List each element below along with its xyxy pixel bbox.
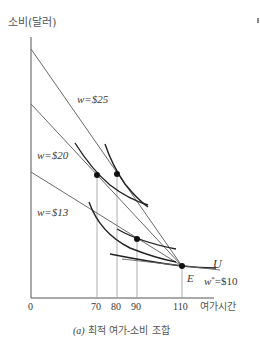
x-tick-110: 110 [173, 301, 188, 312]
x-tick-80: 80 [111, 301, 121, 312]
indifference-curve-90 [89, 202, 176, 262]
indifference-curve-80 [105, 144, 148, 207]
label-w20: w=$20 [37, 149, 69, 161]
optimum-point-80 [114, 171, 120, 177]
optimum-point-70 [94, 172, 100, 178]
x-tick-70: 70 [91, 301, 101, 312]
labor-leisure-chart: 소비(달러) w=$25 w=$20 w=$13 U E w*=$10 0 70… [0, 0, 260, 351]
x-tick-90: 90 [131, 301, 141, 312]
indifference-curve-70 [75, 143, 148, 205]
optimum-point-90 [134, 236, 140, 242]
label-w13: w=$13 [37, 206, 69, 218]
x-tick-0: 0 [28, 301, 33, 312]
endowment-point-E [179, 263, 185, 269]
indifference-curve-U [110, 254, 216, 268]
page-edge-mark [257, 18, 259, 23]
budget-line-w20 [31, 104, 182, 266]
label-E: E [186, 272, 194, 284]
x-axis-label: 여가시간 [200, 301, 236, 312]
budget-line-w13 [31, 172, 182, 266]
label-reservation-wage: w*=$10 [204, 275, 238, 287]
label-w25: w=$25 [77, 93, 109, 105]
caption: (a)최적 여가-소비 조합 [73, 325, 170, 337]
y-axis-label: 소비(달러) [8, 16, 57, 29]
label-U: U [213, 257, 223, 271]
